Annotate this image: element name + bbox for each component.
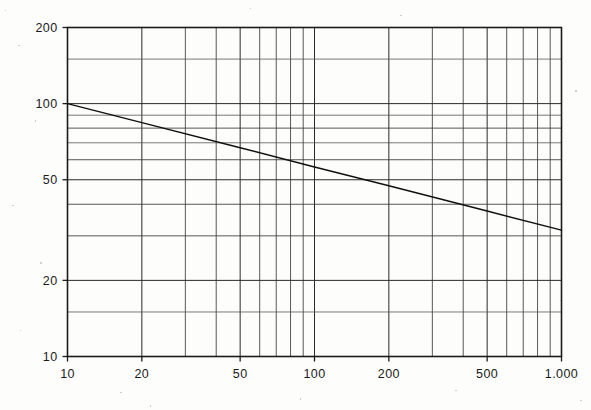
scan-speckle: [575, 90, 577, 92]
scan-speckle: [20, 330, 21, 331]
y-tick-label-10: 10: [43, 350, 58, 364]
x-tick-label-100: 100: [303, 367, 325, 381]
scan-speckle: [18, 45, 20, 46]
scan-speckle: [12, 205, 14, 206]
y-tick-label-50: 50: [43, 173, 58, 187]
x-tick-label-500: 500: [476, 367, 498, 381]
scan-speckle: [40, 262, 42, 264]
scan-speckle: [400, 15, 402, 16]
scan-speckle: [300, 398, 301, 400]
scan-speckle: [250, 8, 251, 9]
scan-speckle: [455, 390, 457, 391]
x-tick-label-1000: 1.000: [545, 367, 578, 381]
x-tick-label-20: 20: [134, 367, 149, 381]
y-tick-label-20: 20: [43, 274, 58, 288]
y-tick-label-100: 100: [35, 97, 57, 111]
log-log-chart: 1020501002005001.000200100502010: [0, 0, 591, 410]
x-tick-label-200: 200: [378, 367, 400, 381]
scan-speckle: [120, 392, 122, 393]
scan-speckle: [580, 400, 582, 401]
x-tick-label-10: 10: [60, 367, 75, 381]
chart-canvas: 1020501002005001.000200100502010: [0, 0, 591, 410]
scan-speckle: [5, 10, 6, 11]
scan-speckle: [35, 120, 36, 122]
scan-speckle: [150, 405, 151, 407]
y-tick-label-200: 200: [35, 21, 57, 35]
x-tick-label-50: 50: [233, 367, 248, 381]
